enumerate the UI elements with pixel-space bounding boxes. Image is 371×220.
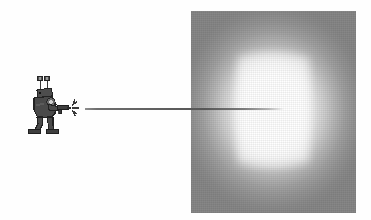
figure-page-root	[0, 0, 371, 220]
ray-gun	[57, 106, 71, 114]
energy-beam	[85, 108, 284, 110]
illustration-canvas	[0, 0, 371, 220]
beam-shooter-character	[26, 74, 86, 136]
muzzle-flash-spark	[72, 100, 78, 116]
foot-front	[46, 129, 59, 134]
antenna-left	[37, 76, 42, 89]
antenna-right	[45, 76, 50, 89]
foot-back	[28, 129, 41, 134]
illuminated-target-panel	[191, 11, 356, 213]
